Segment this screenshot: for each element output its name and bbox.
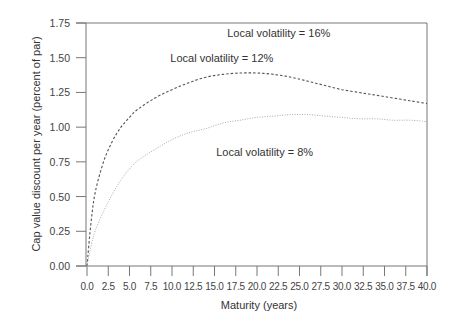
series-annotation: Local volatility = 12% bbox=[170, 52, 273, 64]
x-tick-label: 15.0 bbox=[205, 281, 224, 292]
series-line-vol-12 bbox=[87, 73, 427, 266]
y-axis-title: Cap value discount per year (percent of … bbox=[30, 36, 42, 251]
x-axis-title: Maturity (years) bbox=[221, 299, 297, 311]
x-tick-label: 40.0 bbox=[418, 281, 437, 292]
x-tick-label: 25.0 bbox=[290, 281, 309, 292]
y-tick-label: 0.50 bbox=[50, 191, 71, 203]
x-ticks: 0.02.55.07.510.012.515.017.520.022.525.0… bbox=[80, 266, 436, 292]
y-tick-label: 1.50 bbox=[50, 52, 71, 64]
x-tick-label: 10.0 bbox=[163, 281, 182, 292]
x-tick-label: 2.5 bbox=[102, 281, 116, 292]
x-tick-label: 22.5 bbox=[269, 281, 288, 292]
series-line-vol-8 bbox=[87, 114, 427, 266]
y-tick-label: 1.00 bbox=[50, 121, 71, 133]
y-tick-label: 1.25 bbox=[50, 86, 71, 98]
x-tick-label: 5.0 bbox=[123, 281, 137, 292]
annotations: Local volatility = 16%Local volatility =… bbox=[170, 27, 330, 158]
y-tick-label: 1.75 bbox=[50, 17, 71, 29]
x-tick-label: 12.5 bbox=[184, 281, 203, 292]
y-tick-label: 0.25 bbox=[50, 225, 71, 237]
x-tick-label: 35.0 bbox=[375, 281, 394, 292]
series-annotation: Local volatility = 16% bbox=[227, 27, 330, 39]
series-layer bbox=[87, 73, 427, 266]
x-tick-label: 37.5 bbox=[397, 281, 416, 292]
x-tick-label: 0.0 bbox=[80, 281, 94, 292]
x-tick-label: 17.5 bbox=[227, 281, 246, 292]
x-tick-label: 27.5 bbox=[312, 281, 331, 292]
y-tick-label: 0.75 bbox=[50, 156, 71, 168]
chart: 0.000.250.500.751.001.251.501.75 0.02.55… bbox=[0, 0, 459, 330]
x-tick-label: 7.5 bbox=[144, 281, 158, 292]
y-tick-label: 0.00 bbox=[50, 260, 71, 272]
x-tick-label: 20.0 bbox=[248, 281, 267, 292]
x-tick-label: 30.0 bbox=[333, 281, 352, 292]
y-ticks: 0.000.250.500.751.001.251.501.75 bbox=[50, 17, 86, 272]
x-tick-label: 32.5 bbox=[354, 281, 373, 292]
series-annotation: Local volatility = 8% bbox=[216, 146, 313, 158]
